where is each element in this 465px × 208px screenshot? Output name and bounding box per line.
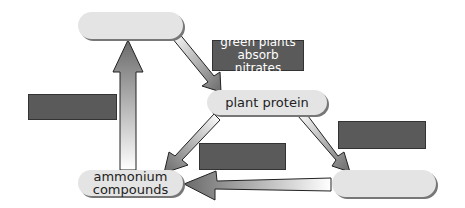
label-line2: absorb nitrates (213, 49, 303, 75)
node-bottom-right (332, 170, 436, 197)
blank-label-middle (199, 143, 286, 170)
blank-label-right (338, 121, 426, 149)
node-plant-protein: plant protein (207, 90, 327, 115)
node-plant-protein-label: plant protein (225, 96, 309, 109)
blank-label-left (28, 94, 117, 120)
arrow-ammonium-to-top (113, 40, 143, 170)
node-ammonium-line2: compounds (93, 183, 168, 196)
node-top (78, 12, 183, 39)
label-green-plants-absorb-nitrates: green plants absorb nitrates (212, 40, 304, 71)
node-ammonium-compounds: ammonium compounds (78, 170, 183, 196)
arrow-bottom-right-to-ammonium (184, 171, 331, 200)
